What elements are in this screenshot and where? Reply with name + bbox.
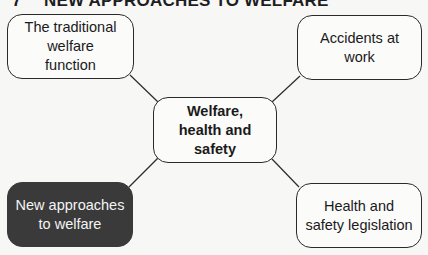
node-traditional-welfare-function: The traditional welfare function bbox=[7, 14, 134, 79]
node-health-safety-legislation: Health and safety legislation bbox=[296, 183, 422, 248]
node-label: Health and safety legislation bbox=[303, 197, 415, 235]
node-label: Accidents at work bbox=[304, 29, 415, 67]
node-accidents-at-work: Accidents at work bbox=[297, 15, 422, 80]
connector-bottom-left bbox=[129, 158, 158, 187]
connector-bottom-right bbox=[272, 159, 299, 187]
node-label: New approaches to welfare bbox=[14, 196, 126, 234]
node-center-welfare-health-safety: Welfare, health and safety bbox=[153, 97, 277, 163]
connector-top-right bbox=[272, 76, 300, 102]
connector-top-left bbox=[130, 75, 158, 102]
node-label: The traditional welfare function bbox=[21, 18, 121, 75]
node-label: Welfare, health and safety bbox=[160, 102, 270, 159]
node-new-approaches-to-welfare: New approaches to welfare bbox=[7, 182, 133, 247]
